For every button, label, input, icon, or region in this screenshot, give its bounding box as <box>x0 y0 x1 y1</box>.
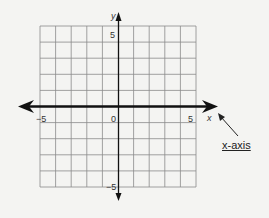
y-axis-label: y <box>110 11 116 21</box>
y-min-tick-label: −5 <box>106 182 116 192</box>
x-axis-label: x <box>206 113 212 123</box>
y-axis-up-arrow-icon <box>116 12 122 21</box>
y-max-tick-label: 5 <box>110 30 115 40</box>
y-axis-down-arrow-icon <box>116 193 122 201</box>
callout-pointer <box>218 113 238 136</box>
x-axis-callout-label: x-axis <box>222 139 251 151</box>
x-max-tick-label: 5 <box>188 114 193 124</box>
coordinate-plane: y 5 −5 0 5 x −5 <box>0 0 269 218</box>
origin-label: 0 <box>111 114 116 124</box>
x-min-tick-label: −5 <box>36 114 46 124</box>
